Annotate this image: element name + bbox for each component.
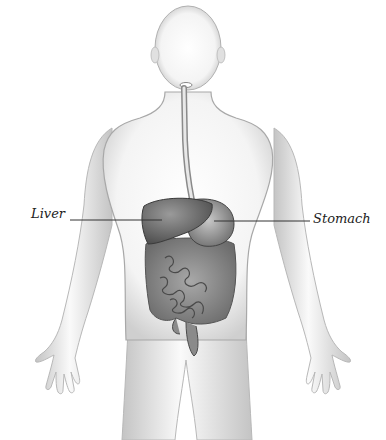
head	[151, 6, 225, 90]
stomach-label: Stomach	[313, 211, 371, 226]
legs	[122, 330, 252, 440]
digestive-system-diagram: Liver Stomach	[0, 0, 386, 440]
left-arm	[35, 128, 112, 394]
right-arm	[274, 128, 351, 394]
liver-label: Liver	[31, 206, 65, 221]
